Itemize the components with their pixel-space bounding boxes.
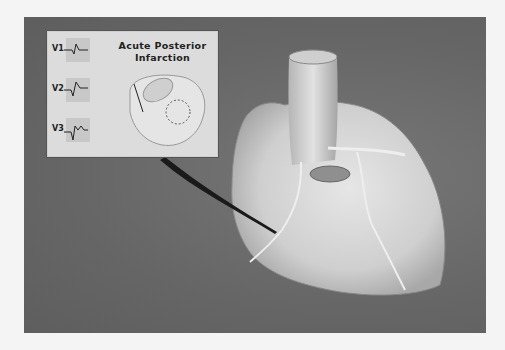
heart-cross-section-diagram xyxy=(48,32,217,156)
ekg-inset-card: Acute Posterior Infarction V1 V2 V3 xyxy=(47,31,218,157)
